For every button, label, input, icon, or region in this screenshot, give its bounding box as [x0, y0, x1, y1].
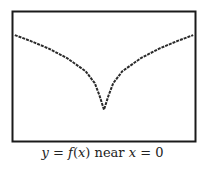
- caption-value: 0: [155, 145, 163, 160]
- caption-equals-2: =: [136, 145, 155, 160]
- caption-equals: =: [49, 145, 68, 160]
- caption-var-y: y: [42, 145, 49, 160]
- caption-near: near: [90, 145, 128, 160]
- plot-frame: [13, 12, 196, 142]
- chart-caption: y = f(x) near x = 0: [0, 145, 205, 160]
- caption-var-x: x: [129, 145, 136, 160]
